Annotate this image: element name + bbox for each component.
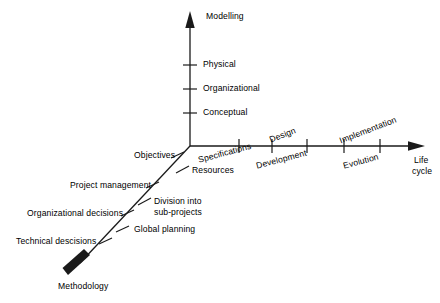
diagonal-label-resources: Resources	[192, 165, 234, 175]
vertical-tick-label-conceptual: Conceptual	[203, 107, 247, 117]
diagonal-label-project-management: Project management	[70, 180, 151, 190]
diagram-canvas: Modelling Physical Organizational Concep…	[0, 0, 440, 303]
vertical-tick-label-physical: Physical	[203, 59, 236, 69]
axis-title-life-cycle-line1: Life	[414, 155, 428, 165]
diagonal-tick-global-planning	[116, 226, 129, 232]
horizontal-axis-arrowhead	[408, 141, 425, 150]
diagonal-label-division-into-sub-projects-line1: Division into	[154, 196, 202, 206]
diagonal-axis-arrowhead	[63, 249, 91, 275]
diagonal-label-organizational-decisions: Organizational decisions	[27, 208, 123, 218]
diagonal-label-objectives: Objectives	[134, 150, 175, 160]
diagonal-label-technical-descisions: Technical descisions	[16, 236, 96, 246]
vertical-axis-modelling	[183, 11, 197, 146]
diagonal-tick-resources	[176, 166, 189, 173]
vertical-axis-arrowhead	[185, 11, 194, 28]
diagonal-label-global-planning: Global planning	[134, 224, 195, 234]
diagonal-label-division-into-sub-projects-line2: sub-projects	[154, 207, 202, 217]
vertical-tick-label-organizational: Organizational	[203, 83, 260, 93]
axis-title-methodology: Methodology	[58, 281, 108, 291]
axis-title-life-cycle-line2: cycle	[412, 166, 432, 176]
axis-title-modelling: Modelling	[206, 11, 244, 21]
